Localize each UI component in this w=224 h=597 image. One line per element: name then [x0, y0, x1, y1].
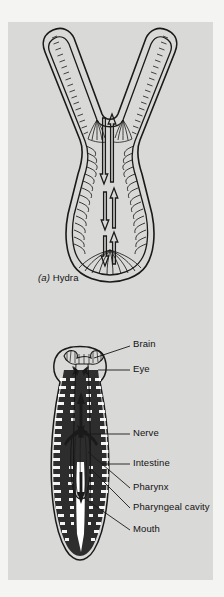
hydra-diagram	[8, 22, 213, 312]
planarian-brain	[64, 351, 104, 364]
label-eye: Eye	[133, 363, 150, 374]
hydra-arrow-up-3	[110, 232, 118, 264]
label-brain: Brain	[133, 338, 156, 349]
caption-hydra-prefix: (a)	[38, 272, 50, 283]
hydra-arrow-up-1	[108, 114, 116, 182]
caption-hydra-text: Hydra	[53, 272, 79, 283]
label-mouth: Mouth	[133, 523, 160, 534]
panel-hydra: (a) Hydra	[8, 22, 213, 312]
planarian-diagram	[8, 312, 213, 580]
figure-container: (a) Hydra	[0, 0, 224, 597]
hydra-arrow-down-2	[101, 192, 109, 230]
figure-plate: (a) Hydra	[8, 22, 213, 580]
label-pharynx: Pharynx	[133, 481, 169, 492]
label-intestine: Intestine	[133, 457, 170, 468]
hydra-basal-disc-cells	[79, 250, 141, 275]
caption-hydra: (a) Hydra	[38, 272, 79, 283]
label-nerve: Nerve	[133, 427, 159, 438]
panel-planarian: Brain Eye Nerve Intestine Pharynx Pharyn…	[8, 312, 213, 580]
hydra-arrow-up-2	[110, 188, 118, 228]
label-pharyngeal-cavity: Pharyngeal cavity	[133, 501, 210, 512]
